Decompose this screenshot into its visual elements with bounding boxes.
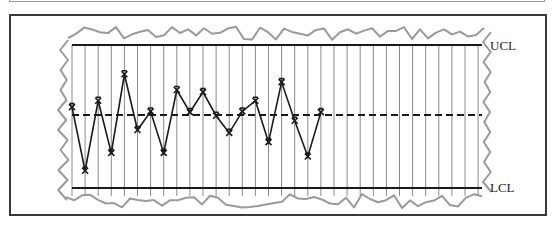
lcl-label: LCL	[490, 180, 515, 195]
ucl-label: UCL	[490, 38, 516, 53]
data-series-line	[72, 74, 321, 171]
torn-paper-edge	[58, 27, 491, 208]
data-markers	[69, 71, 324, 174]
control-chart: UCL LCL	[0, 0, 557, 225]
grid-lines	[72, 45, 478, 196]
